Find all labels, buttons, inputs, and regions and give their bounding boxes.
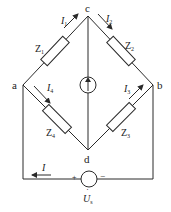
node-label-b: b	[157, 79, 163, 91]
impedance-label-z4: Z4	[46, 127, 55, 139]
node-label-a: a	[12, 79, 17, 91]
node-label-c: c	[85, 2, 90, 14]
node-label-d: d	[84, 153, 90, 165]
voltage-source-minus: −	[100, 171, 105, 181]
bridge-circuit-diagram: c a b d Z1 Z2 Z4 Z3 I1 I2 I4 I3 I + − Us…	[0, 0, 171, 212]
current-source	[80, 77, 96, 93]
voltage-source	[81, 171, 97, 187]
impedance-label-z2: Z2	[125, 40, 134, 52]
current-label-i3: I3	[123, 83, 130, 95]
impedance-label-z1: Z1	[35, 43, 44, 55]
current-label-i1: I1	[60, 15, 67, 27]
voltage-source-label: Us	[83, 193, 93, 205]
voltage-source-phasor-dot: ·	[86, 184, 89, 194]
current-label-i4: I4	[46, 82, 53, 94]
impedance-label-z3: Z3	[121, 127, 130, 139]
current-label-i: I	[41, 162, 46, 173]
current-label-i2: I2	[105, 13, 112, 25]
impedance-z1	[41, 36, 69, 65]
voltage-source-plus: +	[72, 173, 77, 182]
